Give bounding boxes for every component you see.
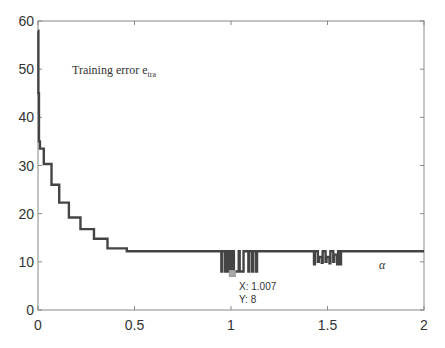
svg-text:20: 20 xyxy=(18,206,34,222)
svg-text:60: 60 xyxy=(18,13,34,29)
svg-text:1: 1 xyxy=(227,317,235,333)
alpha-label: α xyxy=(379,258,386,272)
svg-text:10: 10 xyxy=(18,254,34,270)
svg-text:30: 30 xyxy=(18,158,34,174)
svg-text:1.5: 1.5 xyxy=(318,317,338,333)
training-error-label: Training error etra xyxy=(72,63,156,79)
datatip-x: X: 1.007 xyxy=(239,281,277,292)
datatip-marker[interactable] xyxy=(229,270,235,276)
tick-labels: 00.511.520102030405060 xyxy=(18,13,428,333)
svg-text:0: 0 xyxy=(26,302,34,318)
svg-text:40: 40 xyxy=(18,109,34,125)
svg-text:50: 50 xyxy=(18,61,34,77)
svg-text:0: 0 xyxy=(34,317,42,333)
svg-text:2: 2 xyxy=(420,317,428,333)
svg-text:0.5: 0.5 xyxy=(125,317,145,333)
training-error-chart: 00.511.520102030405060 Training error et… xyxy=(0,0,445,348)
datatip-y: Y: 8 xyxy=(239,294,257,305)
